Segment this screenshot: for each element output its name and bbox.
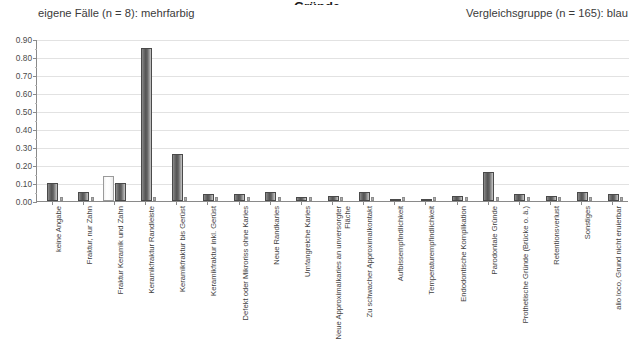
y-axis-tick [33,184,37,185]
y-axis-minor-tick [35,85,38,86]
y-axis-tick [33,166,37,167]
bar-own-cases [153,197,156,201]
y-axis-tick-label: 0.90 [0,36,32,44]
bar-comparison-group [608,194,619,201]
y-axis-tick-label: 0.40 [0,126,32,134]
y-axis-tick [33,112,37,113]
bar-own-cases [309,197,312,201]
x-axis-tick [519,202,520,205]
legend-own-cases: eigene Fälle (n = 8): mehrfarbig [38,7,194,19]
y-axis-tick [33,130,37,131]
bar-own-cases [496,197,499,201]
y-axis-minor-tick [35,103,38,104]
bar-own-cases [589,197,592,201]
x-axis-tick-label: Fraktur Keramik und Zahn [117,206,126,352]
y-axis-tick [33,58,37,59]
bar-comparison-group [390,199,401,201]
bar-own-cases [371,197,374,201]
y-axis-tick [33,148,37,149]
chart-title: Gründe [0,0,634,5]
x-axis-tick [488,202,489,205]
y-axis-minor-tick [35,121,38,122]
bar-chart: Gründe eigene Fälle (n = 8): mehrfarbig … [0,0,634,352]
bar-own-cases [402,197,405,201]
gridline [37,148,629,149]
x-axis-tick-label: Keramikfraktur Randleiste [148,206,157,352]
y-axis-tick [33,40,37,41]
gridline [37,166,629,167]
bar-comparison-group [577,192,588,201]
x-axis-tick-label: Temperaturempfindlichkeit [428,206,437,352]
plot-area [36,40,628,202]
bar-comparison-group [234,194,245,201]
x-axis-tick [145,202,146,205]
y-axis-tick-label: 0.00 [0,198,32,206]
x-axis-tick-label: Umfangreiche Karies [304,206,313,352]
y-axis-minor-tick [35,157,38,158]
x-axis-tick [176,202,177,205]
x-axis-tick [394,202,395,205]
x-axis-tick [83,202,84,205]
x-axis-tick-label: Endodontische Komplikation [460,206,469,352]
x-axis-tick-label: Defekt oder Mikroriss ohne Karies [242,206,251,352]
bar-comparison-group [265,192,276,201]
x-axis-tick [207,202,208,205]
y-axis-tick-label: 0.70 [0,72,32,80]
bar-own-cases [558,197,561,201]
bar-comparison-group [421,199,432,201]
x-axis-tick-label: Parodontale Gründe [491,206,500,352]
x-axis-tick-label: keine Angabe [55,206,64,352]
y-axis-minor-tick [35,193,38,194]
y-axis-tick [33,76,37,77]
bar-own-cases [527,197,530,201]
bar-own-cases [184,197,187,201]
gridline [37,94,629,95]
bar-comparison-group [203,194,214,201]
gridline [37,112,629,113]
y-axis-tick-label: 0.80 [0,54,32,62]
x-axis-tick [581,202,582,205]
bar-comparison-group [359,192,370,201]
bar-own-cases [340,197,343,201]
x-axis-tick-label: Neue Approximalkaries an unversorgter Fl… [335,206,352,352]
y-axis-tick-label: 0.10 [0,180,32,188]
x-axis-tick-label: Fraktur, nur Zahn [86,206,95,352]
x-axis-tick [270,202,271,205]
y-axis-tick [33,94,37,95]
bar-own-cases [91,197,94,201]
gridline [37,58,629,59]
x-axis-tick-label: Prothetische Gründe (Brücke o. ä.) [522,206,531,352]
x-axis-tick [52,202,53,205]
x-axis-tick [332,202,333,205]
x-axis-tick-label: Zu schwacher Approximalkontakt [366,206,375,352]
x-axis-tick [457,202,458,205]
x-axis-tick [612,202,613,205]
x-axis-tick-label: Keramikfraktur inkl. Gerüst [210,206,219,352]
legend-comparison-group: Vergleichsgruppe (n = 165): blau [466,7,628,19]
bar-own-cases [247,197,250,201]
x-axis-tick-label: Keramikfraktur bis Gerüst [179,206,188,352]
bar-comparison-group [328,196,339,201]
x-axis-labels: keine AngabeFraktur, nur ZahnFraktur Ker… [36,206,634,352]
gridline [37,40,629,41]
bar-comparison-group [141,48,152,201]
x-axis-tick [114,202,115,205]
bar-own-cases [215,197,218,201]
bar-comparison-group [483,172,494,201]
bar-comparison-group [47,183,58,201]
bar-comparison-group [296,197,307,201]
bar-comparison-group [452,196,463,201]
bar-comparison-group [115,183,126,201]
chart-legend: eigene Fälle (n = 8): mehrfarbig Verglei… [0,7,634,27]
x-axis-tick [363,202,364,205]
gridline [37,76,629,77]
y-axis-tick [33,202,37,203]
bar-comparison-group [546,196,557,201]
gridline [37,130,629,131]
bar-own-cases [60,197,63,201]
bar-own-cases [620,197,623,201]
bar-own-cases [433,197,436,201]
bar-own-cases [103,176,114,201]
y-axis-minor-tick [35,175,38,176]
bar-comparison-group [172,154,183,201]
